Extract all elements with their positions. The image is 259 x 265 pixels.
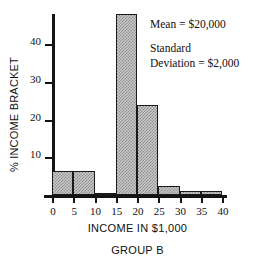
y-axis-title-container: % INCOME BRACKET <box>6 24 22 205</box>
y-tick: 30 <box>45 82 53 84</box>
x-tick <box>73 195 75 203</box>
y-tick-label: 20 <box>30 112 41 123</box>
y-tick: 20 <box>45 120 53 122</box>
annotation-mean: Mean = $20,000 <box>150 17 258 32</box>
x-tick-label: 5 <box>72 206 78 217</box>
x-tick <box>222 195 224 203</box>
x-tick-label: 0 <box>50 206 56 217</box>
y-tick-label: 10 <box>30 149 41 160</box>
y-tick: 40 <box>45 44 53 46</box>
histogram-bar <box>116 14 137 195</box>
x-axis-line <box>44 195 227 198</box>
histogram-bar <box>137 105 158 196</box>
x-tick-label: 20 <box>133 206 144 217</box>
x-tick-label: 15 <box>111 206 122 217</box>
annotation-deviation: Deviation = $2,000 <box>150 56 258 71</box>
x-tick <box>95 195 97 203</box>
x-tick <box>137 195 139 203</box>
y-tick-label: 40 <box>30 36 41 47</box>
statistics-annotation: Mean = $20,000 Standard Deviation = $2,0… <box>150 17 258 71</box>
y-tick-label: 30 <box>30 74 41 85</box>
x-tick <box>116 195 118 203</box>
histogram-bar <box>180 191 201 195</box>
histogram-bar <box>73 171 94 195</box>
x-tick-label: 40 <box>218 206 229 217</box>
chart-caption: GROUP B <box>40 244 235 256</box>
x-tick-label: 25 <box>154 206 165 217</box>
histogram-bar <box>158 186 179 195</box>
y-axis-title: % INCOME BRACKET <box>8 24 24 205</box>
histogram-bar <box>52 171 73 195</box>
x-tick-label: 10 <box>90 206 101 217</box>
x-tick <box>180 195 182 203</box>
y-axis-line <box>52 14 55 196</box>
x-tick <box>52 195 54 203</box>
y-tick: 10 <box>45 157 53 159</box>
x-tick <box>201 195 203 203</box>
histogram-figure: % INCOME BRACKET 10203040 05101520253035… <box>0 0 259 265</box>
x-tick <box>158 195 160 203</box>
x-axis-title: INCOME IN $1,000 <box>40 222 235 234</box>
histogram-bar <box>95 193 116 196</box>
histogram-bar <box>201 191 222 195</box>
x-tick-label: 35 <box>196 206 207 217</box>
x-tick-label: 30 <box>175 206 186 217</box>
annotation-standard: Standard <box>150 41 258 56</box>
